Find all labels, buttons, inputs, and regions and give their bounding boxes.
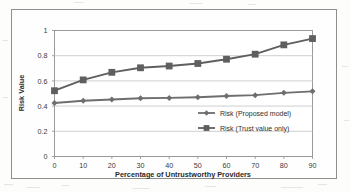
- data-point-marker: [108, 69, 115, 76]
- figure-container: 00.20.40.60.81 0102030405060708090 Risk …: [0, 0, 351, 193]
- x-axis-tick-labels: 0102030405060708090: [53, 161, 317, 170]
- x-axis-tick-label: 30: [137, 161, 145, 170]
- y-axis-tick-label: 0.2: [38, 127, 48, 136]
- x-axis-tick-label: 90: [309, 161, 317, 170]
- x-axis-tick-label: 10: [79, 161, 87, 170]
- legend-label: Risk (Trust value only): [220, 125, 289, 133]
- data-point-marker: [252, 51, 259, 58]
- data-point-marker: [204, 125, 210, 131]
- x-axis-tick-label: 20: [108, 161, 116, 170]
- x-axis-tick-label: 70: [251, 161, 259, 170]
- y-axis-tick-label: 0.4: [38, 102, 48, 111]
- data-point-marker: [166, 63, 173, 70]
- y-axis-title: Risk Value: [17, 75, 26, 112]
- x-axis-tick-label: 40: [165, 161, 173, 170]
- risk-value-line-chart: 00.20.40.60.81 0102030405060708090 Risk …: [0, 0, 351, 193]
- y-axis-tick-label: 0: [44, 152, 48, 161]
- x-axis-tick-label: 80: [280, 161, 288, 170]
- data-point-marker: [194, 60, 201, 67]
- data-point-marker: [309, 35, 316, 42]
- x-axis-title: Percentage of Untrustworthy Providers: [115, 170, 251, 179]
- data-point-marker: [51, 87, 58, 94]
- y-axis-tick-label: 0.8: [38, 51, 48, 60]
- x-axis-tick-label: 0: [53, 161, 57, 170]
- data-point-marker: [223, 56, 230, 63]
- x-axis-tick-label: 60: [223, 161, 231, 170]
- data-point-marker: [280, 41, 287, 48]
- legend-label: Risk (Proposed model): [220, 110, 291, 118]
- data-point-marker: [80, 76, 87, 83]
- data-point-marker: [137, 64, 144, 71]
- y-axis-tick-label: 0.6: [38, 77, 48, 86]
- y-axis-tick-label: 1: [44, 26, 48, 35]
- x-axis-tick-label: 50: [194, 161, 202, 170]
- y-axis-tick-labels: 00.20.40.60.81: [38, 26, 48, 161]
